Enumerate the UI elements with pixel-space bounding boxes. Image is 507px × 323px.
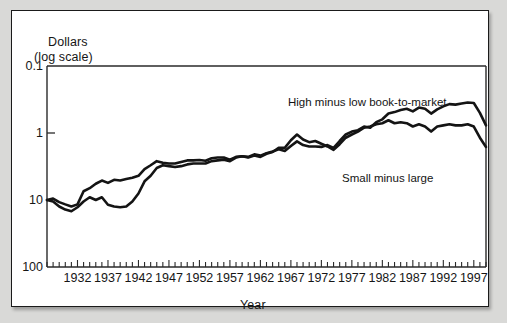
series-paths xyxy=(47,103,486,212)
y-tick-label: 0.1 xyxy=(9,59,43,73)
y-tick-label: 1 xyxy=(9,126,43,140)
series-line xyxy=(47,120,486,211)
y-tick-label: 100 xyxy=(9,260,43,274)
axis-lines xyxy=(47,66,486,267)
x-tick-marks xyxy=(47,260,486,267)
x-tick-label: 1997 xyxy=(454,271,494,285)
figure-background: Dollars (log scale) High minus low book-… xyxy=(0,0,507,323)
y-tick-label: 10 xyxy=(9,193,43,207)
